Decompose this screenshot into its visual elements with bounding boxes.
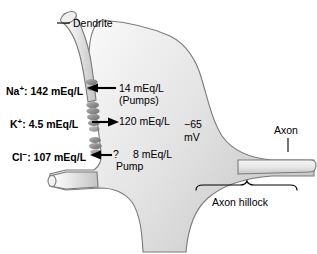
cl-outside-value: 8 mEq/L (133, 148, 172, 161)
cl-inside-label: Cl−: 107 mEq/L (12, 148, 86, 163)
axon-hillock-label: Axon hillock (212, 196, 268, 209)
na-inside-label: Na+: 142 mEq/L (6, 82, 83, 97)
k-inside-label: K+: 4.5 mEq/L (10, 115, 78, 130)
dendrite-process-lower (48, 172, 98, 189)
neuron-diagram-figure: Dendrite Na+: 142 mEq/L K+: 4.5 mEq/L Cl… (0, 0, 317, 254)
cl-inside-text: Cl−: 107 mEq/L (12, 151, 86, 163)
cl-unknown-marker: ? (113, 148, 119, 161)
membrane-potential-label: −65 mV (184, 118, 202, 143)
dendrite-label: Dendrite (73, 17, 113, 30)
na-inside-text: Na+: 142 mEq/L (6, 85, 83, 97)
k-outside-value: 120 mEq/L (119, 115, 170, 128)
axon-process (238, 160, 316, 174)
axon-label: Axon (274, 124, 298, 137)
k-inside-text: K+: 4.5 mEq/L (10, 118, 78, 130)
cl-pump-note: Pump (116, 160, 143, 173)
na-outside-value: 14 mEq/L (119, 82, 164, 95)
na-pumps-note: (Pumps) (119, 94, 159, 107)
